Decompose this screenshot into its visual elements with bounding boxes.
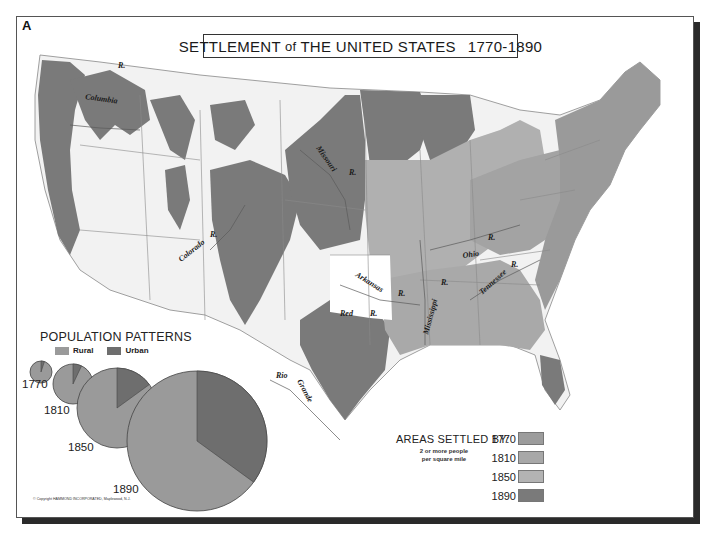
river-label-columbia-r: R. [117,61,125,70]
title-part3: THE UNITED STATES [300,38,455,55]
population-patterns-legend: Rural Urban [55,346,149,355]
river-label-ohio-r: R. [487,233,495,242]
urban-swatch [107,347,121,355]
population-pie-charts [30,361,267,511]
river-label-colorado-r: R. [209,230,217,239]
legend-year-1850: 1850 [490,471,516,483]
river-label-red: Red [339,309,354,318]
river-label-rio: Rio [275,371,288,380]
river-label-mississippi-r: R. [440,278,448,287]
legend-year-1890: 1890 [490,490,516,502]
areas-settled-subtitle-line1: 2 or more people [413,447,475,455]
title-part1: SETTLEMENT [179,38,281,55]
river-label-tennessee-r: R. [510,260,518,269]
copyright-notice: © Copyright HAMMOND INCORPORATED, Maplew… [33,497,130,501]
legend-row-1850: 1850 [490,470,544,483]
map-title: SETTLEMENT of THE UNITED STATES 1770-189… [203,34,518,58]
pie-label-1850: 1850 [68,441,94,453]
swatch-1850 [518,470,544,483]
legend-urban: Urban [107,346,148,355]
legend-rural: Rural [55,346,93,355]
pie-label-1770: 1770 [22,378,48,390]
legend-year-1770: 1770 [490,433,516,445]
river-label-missouri-r: R. [348,168,356,177]
pie-label-1810: 1810 [44,404,70,416]
population-patterns-title: POPULATION PATTERNS [40,330,192,344]
title-years: 1770-1890 [468,38,542,55]
title-part2: of [285,39,296,54]
legend-row-1810: 1810 [490,451,544,464]
legend-rural-label: Rural [73,346,93,355]
rural-swatch [55,347,69,355]
river-label-arkansas-r: R. [397,289,405,298]
legend-row-1890: 1890 [490,489,544,502]
legend-urban-label: Urban [125,346,148,355]
swatch-1770 [518,432,544,445]
river-label-red-r: R. [369,309,377,318]
river-label-grande: Grande [295,378,315,405]
areas-settled-subtitle: 2 or more people per square mile [413,447,475,463]
swatch-1890 [518,489,544,502]
legend-year-1810: 1810 [490,452,516,464]
us-map: Columbia R. Missouri R. Colorado R. Arka… [0,0,705,535]
areas-settled-subtitle-line2: per square mile [413,455,475,463]
legend-row-1770: 1770 [490,432,544,445]
swatch-1810 [518,451,544,464]
pie-label-1890: 1890 [113,483,139,495]
